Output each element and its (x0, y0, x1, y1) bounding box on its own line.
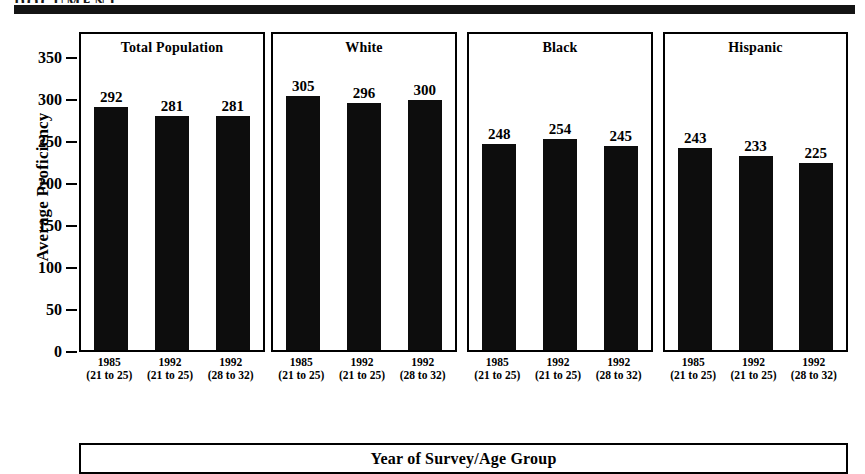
y-axis-tick-labels: 350300250200150100500 (18, 22, 62, 422)
bar-value-label: 254 (527, 122, 593, 137)
x-tick-year: 1992 (722, 356, 786, 369)
y-axis-tick-label: 0 (22, 344, 62, 360)
bar[interactable] (604, 146, 638, 350)
y-axis-tick-mark (66, 99, 77, 101)
bar[interactable] (482, 144, 516, 350)
bar[interactable] (155, 116, 189, 350)
bar-value-label: 281 (200, 99, 266, 114)
bar[interactable] (347, 103, 381, 350)
x-axis-tick-label: 1992(21 to 25) (330, 356, 394, 382)
chart-panel-black: Black248254245 (467, 32, 653, 352)
x-tick-age-range: (28 to 32) (782, 369, 846, 382)
x-tick-year: 1992 (391, 356, 455, 369)
y-axis-tick-label: 100 (22, 260, 62, 276)
y-axis-tick-mark (66, 225, 77, 227)
x-tick-year: 1992 (782, 356, 846, 369)
bar-value-label: 292 (78, 90, 144, 105)
y-axis-tick-mark (66, 141, 77, 143)
x-tick-age-range: (28 to 32) (391, 369, 455, 382)
chart-panel-white: White305296300 (271, 32, 457, 352)
x-tick-year: 1992 (199, 356, 263, 369)
x-axis-tick-label: 1992(21 to 25) (722, 356, 786, 382)
bar-value-label: 225 (783, 146, 849, 161)
x-axis-tick-label: 1992(28 to 32) (391, 356, 455, 382)
bar-value-label: 296 (331, 86, 397, 101)
bar[interactable] (408, 100, 442, 350)
panel-plot-area: 248254245 (469, 34, 651, 350)
bar-group: 248 (482, 34, 516, 350)
y-axis-tick-mark (66, 183, 77, 185)
y-axis-tick-mark (66, 57, 77, 59)
bar-group: 300 (408, 34, 442, 350)
panel-plot-area: 305296300 (273, 34, 455, 350)
bar-group: 281 (216, 34, 250, 350)
y-axis-tick-mark (66, 267, 77, 269)
y-axis-tick-label: 50 (22, 302, 62, 318)
x-tick-year: 1992 (138, 356, 202, 369)
x-tick-age-range: (21 to 25) (138, 369, 202, 382)
x-axis-title-box: Year of Survey/Age Group (79, 443, 848, 474)
x-axis-tick-label: 1992(21 to 25) (526, 356, 590, 382)
x-tick-age-range: (28 to 32) (199, 369, 263, 382)
bar[interactable] (739, 156, 773, 350)
x-tick-age-range: (21 to 25) (722, 369, 786, 382)
y-axis-tick-mark (66, 309, 77, 311)
x-tick-year: 1985 (77, 356, 141, 369)
x-tick-year: 1985 (661, 356, 725, 369)
y-axis-tick-label: 200 (22, 176, 62, 192)
y-axis-tick-label: 300 (22, 92, 62, 108)
y-axis-tick-label: 350 (22, 50, 62, 66)
bar-group: 305 (286, 34, 320, 350)
x-tick-age-range: (21 to 25) (465, 369, 529, 382)
bar[interactable] (94, 107, 128, 350)
x-axis-tick-label: 1985(21 to 25) (269, 356, 333, 382)
bar-value-label: 248 (466, 127, 532, 142)
x-tick-year: 1992 (526, 356, 590, 369)
bar-value-label: 245 (588, 129, 654, 144)
bar-group: 296 (347, 34, 381, 350)
x-axis-tick-label: 1985(21 to 25) (77, 356, 141, 382)
x-tick-year: 1992 (587, 356, 651, 369)
bar[interactable] (799, 163, 833, 350)
panel-plot-area: 292281281 (81, 34, 263, 350)
x-axis-tick-label: 1992(28 to 32) (782, 356, 846, 382)
scanned-page-header: DOCUMENT (14, 0, 119, 3)
x-axis-tick-label: 1992(28 to 32) (199, 356, 263, 382)
x-tick-age-range: (28 to 32) (587, 369, 651, 382)
bar-group: 292 (94, 34, 128, 350)
x-axis-tick-label: 1992(28 to 32) (587, 356, 651, 382)
bar[interactable] (216, 116, 250, 350)
bar[interactable] (286, 96, 320, 350)
x-axis-tick-label: 1985(21 to 25) (661, 356, 725, 382)
chart-panel-total-population: Total Population292281281 (79, 32, 265, 352)
bar-value-label: 300 (392, 83, 458, 98)
y-axis-tick-label: 250 (22, 134, 62, 150)
y-axis-tick-label: 150 (22, 218, 62, 234)
bar-group: 225 (799, 34, 833, 350)
x-tick-age-range: (21 to 25) (269, 369, 333, 382)
bar-group: 254 (543, 34, 577, 350)
bar-chart: Average Proficiency 35030025020015010050… (0, 22, 865, 422)
x-tick-age-range: (21 to 25) (330, 369, 394, 382)
x-tick-year: 1985 (269, 356, 333, 369)
bar-value-label: 305 (270, 79, 336, 94)
x-tick-age-range: (21 to 25) (526, 369, 590, 382)
x-tick-year: 1985 (465, 356, 529, 369)
chart-panel-hispanic: Hispanic243233225 (663, 32, 848, 352)
bar[interactable] (543, 139, 577, 350)
bar[interactable] (678, 148, 712, 350)
y-axis-tick-mark (66, 351, 77, 353)
bar-group: 245 (604, 34, 638, 350)
x-axis-title: Year of Survey/Age Group (371, 450, 557, 468)
x-tick-year: 1992 (330, 356, 394, 369)
bar-value-label: 233 (723, 139, 789, 154)
bar-group: 281 (155, 34, 189, 350)
bar-group: 233 (739, 34, 773, 350)
bar-value-label: 281 (139, 99, 205, 114)
x-axis-tick-label: 1985(21 to 25) (465, 356, 529, 382)
x-tick-age-range: (21 to 25) (661, 369, 725, 382)
header-rule (14, 5, 855, 14)
bar-group: 243 (678, 34, 712, 350)
panel-plot-area: 243233225 (665, 34, 846, 350)
x-tick-age-range: (21 to 25) (77, 369, 141, 382)
